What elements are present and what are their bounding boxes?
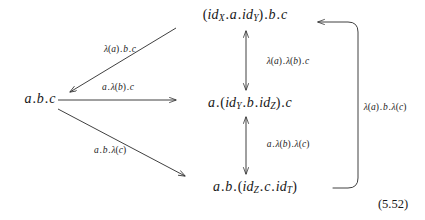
edge-left-to-bottom bbox=[58, 109, 185, 176]
commutative-diagram-figure: (idX.a.idY).b.c a.b.c a.(idY.b.idZ).c a.… bbox=[0, 0, 425, 220]
edge-label-bottom-to-top-bracket: λ(a).b.λ(c) bbox=[364, 103, 407, 113]
edge-bottom-to-top-bracket bbox=[318, 22, 358, 188]
node-center: a.(idY.b.idZ).c bbox=[208, 96, 292, 112]
edge-label-left-to-center: a.λ(b).c bbox=[102, 83, 134, 93]
edge-label-center-bottom-vertical: a.λ(b).λ(c) bbox=[267, 140, 310, 150]
equation-number: (5.52) bbox=[378, 198, 408, 211]
node-left: a.b.c bbox=[25, 92, 56, 106]
node-top: (idX.a.idY).b.c bbox=[203, 8, 287, 24]
edge-label-top-center-vertical: λ(a).λ(b).c bbox=[267, 57, 310, 67]
edge-label-top-to-left: λ(a).b.c bbox=[104, 45, 136, 55]
edge-label-left-to-bottom: a.b.λ(c) bbox=[94, 146, 126, 156]
node-bottom: a.b.(idZ.c.idT) bbox=[213, 180, 297, 196]
